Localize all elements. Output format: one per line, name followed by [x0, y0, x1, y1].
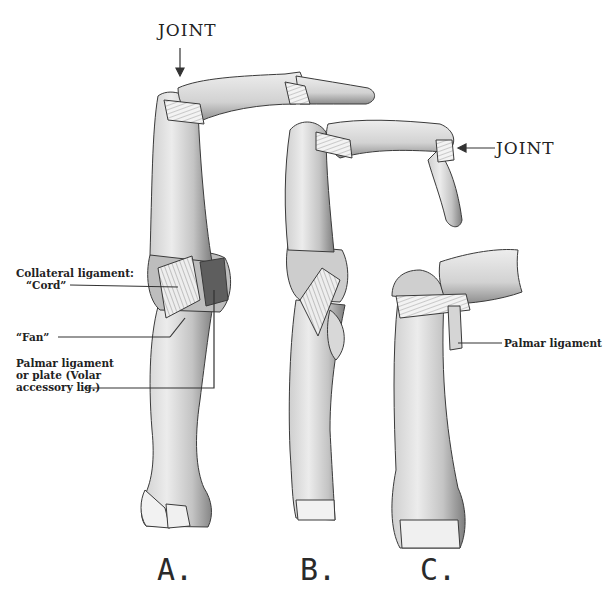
joint-label-top: JOINT: [158, 20, 217, 40]
collateral-line2: “Cord”: [16, 279, 134, 291]
palmar-ligament-c-label: Palmar ligament: [504, 337, 602, 349]
palmar-plate-line2: or plate (Volar: [16, 369, 84, 381]
panel-c-label: C.: [420, 552, 456, 587]
anatomy-illustration: [0, 0, 603, 592]
palmar-plate-line1: Palmar ligament: [16, 357, 84, 369]
fan-label: “Fan”: [16, 331, 49, 343]
palmar-plate-line3: accessory lig.): [16, 381, 84, 393]
collateral-line1: Collateral ligament:: [16, 267, 134, 279]
joint-label-right: JOINT: [496, 138, 555, 158]
palmar-plate-label: Palmar ligament or plate (Volar accessor…: [16, 357, 84, 393]
panel-c-bones: [392, 250, 522, 549]
collateral-ligament-label: Collateral ligament: “Cord”: [16, 267, 134, 291]
panel-b-label: B.: [300, 552, 336, 587]
panel-a-label: A.: [157, 552, 193, 587]
